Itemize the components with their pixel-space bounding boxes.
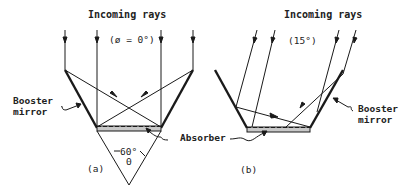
cone-line-right	[129, 131, 161, 185]
absorber-leader-b	[230, 133, 264, 141]
reflected-rays-a	[65, 70, 193, 127]
booster-mirror-diagram: Incoming rays (ø = 0°) Booster mirror Ab…	[0, 0, 414, 193]
incoming-rays-label-b: Incoming rays	[284, 9, 362, 20]
arrow-icon	[76, 103, 81, 108]
arrow-icon	[262, 131, 267, 136]
arrow-icon	[110, 91, 117, 97]
booster-mirror-left-b	[215, 70, 247, 128]
booster-label-b-2: mirror	[358, 114, 393, 125]
arrow-icon	[253, 37, 257, 43]
arrow-icon	[63, 37, 67, 43]
arrow-icon	[191, 37, 195, 43]
booster-leader-b	[336, 100, 353, 111]
booster-label-b-1: Booster	[358, 103, 398, 114]
arrow-icon	[95, 37, 99, 43]
panel-b	[215, 30, 357, 141]
arrow-icon	[300, 102, 305, 108]
arrow-icon	[333, 98, 338, 103]
caption-b: (b)	[240, 164, 257, 175]
arrow-icon	[141, 91, 148, 97]
arrow-icon	[270, 113, 278, 118]
arrow-icon	[353, 37, 357, 43]
caption-a: (a)	[87, 163, 104, 174]
arrow-icon	[159, 37, 163, 43]
cone-line-left	[97, 131, 129, 185]
arrow-icon	[335, 37, 339, 43]
booster-mirror-left-a	[65, 70, 97, 128]
absorber-label: Absorber	[180, 132, 226, 143]
angle-label-a: (ø = 0°)	[109, 34, 155, 45]
theta-label: Θ	[126, 156, 132, 167]
incoming-rays-label-a: Incoming rays	[88, 9, 166, 20]
booster-mirror-right-a	[161, 70, 193, 128]
angle-label-b: (15°)	[288, 35, 317, 46]
booster-label-a-1: Booster	[13, 95, 53, 106]
arrow-icon	[271, 37, 275, 43]
booster-label-a-2: mirror	[13, 106, 48, 117]
booster-leader-a	[61, 105, 79, 110]
